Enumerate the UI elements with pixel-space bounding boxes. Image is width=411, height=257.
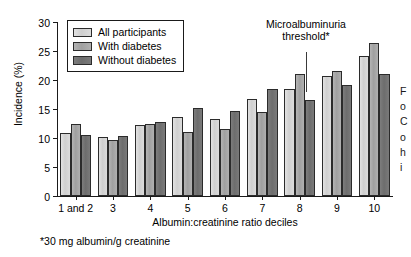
bar [155,122,165,196]
bar [379,74,389,196]
x-tick [225,196,226,200]
legend-swatch [73,28,92,37]
y-tick [53,138,57,139]
x-tick-label: 6 [222,202,228,214]
x-tick [150,196,151,200]
bar [305,100,315,196]
bar [322,76,332,196]
y-tick [53,167,57,168]
legend-item: Without diabetes [73,53,176,67]
bar [267,89,277,196]
legend-swatch [73,56,92,65]
x-tick [76,196,77,200]
legend-label: Without diabetes [98,55,176,66]
bar [135,125,145,196]
x-tick-label: 7 [259,202,265,214]
side-caption-line: o [400,99,411,114]
bar [60,133,70,196]
legend-item: With diabetes [73,39,176,53]
x-tick-label: 9 [334,202,340,214]
bar [247,99,257,196]
y-tick [53,51,57,52]
y-tick-label: 25 [20,46,50,58]
annotation-line-1: Microalbuminuria [240,18,372,30]
x-tick [262,196,263,200]
bar [369,43,379,196]
bar [295,74,305,196]
x-tick-label: 4 [147,202,153,214]
y-tick [53,22,57,23]
x-tick-label: 1 and 2 [58,202,93,214]
bar [81,135,91,196]
bar [257,112,267,196]
bar [145,124,155,197]
bar [359,56,369,196]
x-tick [337,196,338,200]
bar [183,132,193,196]
x-tick-label: 10 [368,202,380,214]
legend: All participantsWith diabetesWithout dia… [67,20,184,72]
annotation-microalbuminuria-threshold: Microalbuminuria threshold* [240,18,372,43]
x-tick [374,196,375,200]
y-axis-title: Incidence (%) [12,49,24,139]
x-tick-label: 5 [185,202,191,214]
x-tick-label: 8 [297,202,303,214]
bar [220,129,230,196]
x-tick [188,196,189,200]
bar-group [359,22,390,196]
bar [71,124,81,196]
x-tick [113,196,114,200]
bar [118,136,128,196]
bar [284,89,294,196]
bar [230,111,240,196]
y-tick-label: 20 [20,75,50,87]
legend-item: All participants [73,25,176,39]
bar-group [210,22,241,196]
side-caption-line: C [400,114,411,129]
bar [172,117,182,196]
y-tick-label: 30 [20,17,50,29]
side-caption-line: o [400,130,411,145]
annotation-line-2: threshold* [240,30,372,42]
bar [342,85,352,196]
x-axis-title: Albumin:creatinine ratio deciles [57,216,393,228]
y-tick-label: 15 [20,104,50,116]
side-caption-clipped: FoCohi [400,84,411,175]
legend-swatch [73,42,92,51]
bar [108,140,118,196]
side-caption-line: i [400,160,411,175]
bar [193,108,203,196]
bar [98,137,108,196]
annotation-leader-line [306,52,307,92]
y-tick-label: 10 [20,133,50,145]
x-tick [300,196,301,200]
bar [210,119,220,196]
footnote: *30 mg albumin/g creatinine [40,235,170,247]
y-tick [53,109,57,110]
y-tick-label: 5 [20,162,50,174]
y-axis-line [57,22,58,196]
y-tick [53,80,57,81]
bar [332,71,342,196]
legend-label: All participants [98,27,166,38]
x-tick-label: 3 [110,202,116,214]
legend-label: With diabetes [98,41,162,52]
bar-group [284,22,315,196]
bar-group [247,22,278,196]
y-tick [53,196,57,197]
bar-group [322,22,353,196]
y-tick-label: 0 [20,191,50,203]
side-caption-line: F [400,84,411,99]
side-caption-line: h [400,145,411,160]
figure-bar-chart: Incidence (%) 051015202530 1 and 2345678… [0,0,411,257]
